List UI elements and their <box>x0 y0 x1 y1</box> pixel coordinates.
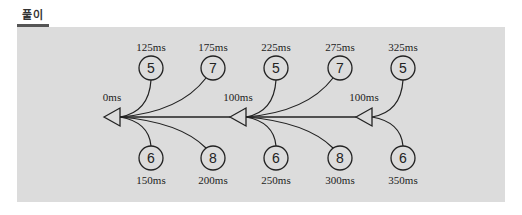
junction-2: 100ms <box>349 91 378 126</box>
node-value: 6 <box>272 150 280 166</box>
node-value: 5 <box>147 60 155 76</box>
arrow-triangle-icon <box>104 108 120 126</box>
node-time-label: 300ms <box>325 174 354 186</box>
bottom-node-2: 6 250ms <box>261 146 290 186</box>
node-value: 6 <box>147 150 155 166</box>
bottom-node-3: 8 300ms <box>325 146 354 186</box>
node-value: 6 <box>399 150 407 166</box>
junction-time-label: 100ms <box>349 91 378 103</box>
timing-tree-diagram: 0ms 100ms 100ms 125ms 5 175ms 7 225ms 5 … <box>0 0 522 215</box>
node-time-label: 125ms <box>136 41 165 53</box>
connector-top-3 <box>246 78 333 117</box>
node-time-label: 225ms <box>261 41 290 53</box>
top-node-0: 125ms 5 <box>136 41 165 80</box>
connector-bottom-4 <box>372 117 403 146</box>
node-value: 5 <box>399 60 407 76</box>
arrow-triangle-icon <box>230 108 246 126</box>
node-value: 7 <box>336 60 344 76</box>
bottom-node-0: 6 150ms <box>136 146 165 186</box>
connector-top-0 <box>120 80 151 117</box>
connector-bottom-1 <box>120 117 206 148</box>
junction-time-label: 0ms <box>103 91 121 103</box>
connector-bottom-2 <box>246 117 276 146</box>
node-value: 7 <box>209 60 217 76</box>
connector-top-1 <box>120 78 206 117</box>
junction-1: 100ms <box>223 91 252 126</box>
top-node-4: 325ms 5 <box>388 41 417 80</box>
top-node-3: 275ms 7 <box>325 41 354 80</box>
node-value: 8 <box>209 150 217 166</box>
top-node-2: 225ms 5 <box>261 41 290 80</box>
node-time-label: 200ms <box>198 174 227 186</box>
node-value: 8 <box>336 150 344 166</box>
node-time-label: 350ms <box>388 174 417 186</box>
bottom-node-4: 6 350ms <box>388 146 417 186</box>
node-time-label: 275ms <box>325 41 354 53</box>
node-value: 5 <box>272 60 280 76</box>
node-time-label: 250ms <box>261 174 290 186</box>
arrow-triangle-icon <box>356 108 372 126</box>
node-time-label: 175ms <box>198 41 227 53</box>
connector-bottom-0 <box>120 117 151 146</box>
node-time-label: 325ms <box>388 41 417 53</box>
node-time-label: 150ms <box>136 174 165 186</box>
bottom-node-1: 8 200ms <box>198 146 227 186</box>
junction-time-label: 100ms <box>223 91 252 103</box>
junction-0: 0ms <box>103 91 121 126</box>
top-node-1: 175ms 7 <box>198 41 227 80</box>
